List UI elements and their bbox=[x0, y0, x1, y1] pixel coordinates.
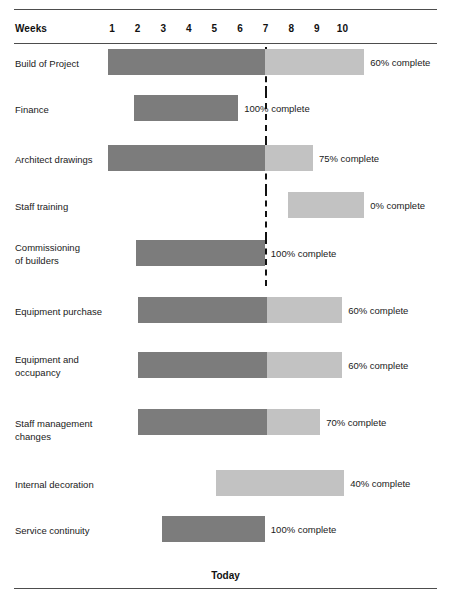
today-marker-line bbox=[265, 190, 267, 238]
weeks-axis-label: Weeks bbox=[15, 23, 47, 34]
task-bar-remaining bbox=[216, 470, 344, 496]
task-bar-completed bbox=[138, 297, 267, 323]
today-caption: Today bbox=[0, 570, 451, 581]
task-percent-note: 60% complete bbox=[348, 360, 408, 371]
header-rule bbox=[14, 43, 437, 44]
task-bar-remaining bbox=[267, 409, 320, 435]
week-tick-3: 3 bbox=[153, 23, 173, 34]
task-percent-note: 60% complete bbox=[370, 57, 430, 68]
week-tick-4: 4 bbox=[179, 23, 199, 34]
task-bar-remaining bbox=[265, 145, 313, 171]
task-percent-note: 100% complete bbox=[271, 524, 336, 535]
task-bar-remaining bbox=[267, 352, 342, 378]
task-label: Build of Project bbox=[15, 57, 79, 70]
task-percent-note: 70% complete bbox=[326, 417, 386, 428]
task-percent-note: 0% complete bbox=[370, 200, 425, 211]
task-label: Equipment and occupancy bbox=[15, 353, 79, 379]
week-tick-1: 1 bbox=[102, 23, 122, 34]
bottom-rule bbox=[14, 588, 437, 589]
week-tick-5: 5 bbox=[204, 23, 224, 34]
task-label: Staff management changes bbox=[15, 417, 92, 443]
task-label: Architect drawings bbox=[15, 153, 93, 166]
task-label: Finance bbox=[15, 103, 49, 116]
week-tick-7: 7 bbox=[256, 23, 276, 34]
week-tick-8: 8 bbox=[281, 23, 301, 34]
task-bar-completed bbox=[162, 516, 265, 542]
task-bar-completed bbox=[138, 409, 267, 435]
task-label: Equipment purchase bbox=[15, 305, 102, 318]
today-marker-line bbox=[265, 238, 267, 286]
task-bar-completed bbox=[136, 240, 265, 266]
task-percent-note: 100% complete bbox=[244, 103, 309, 114]
task-bar-remaining bbox=[267, 297, 342, 323]
task-percent-note: 100% complete bbox=[271, 248, 336, 259]
task-bar-completed bbox=[108, 145, 265, 171]
task-percent-note: 75% complete bbox=[319, 153, 379, 164]
week-tick-9: 9 bbox=[307, 23, 327, 34]
top-rule bbox=[14, 9, 437, 10]
task-label: Commissioning of builders bbox=[15, 241, 80, 267]
task-bar-completed bbox=[108, 49, 265, 75]
task-percent-note: 60% complete bbox=[348, 305, 408, 316]
task-bar-remaining bbox=[265, 49, 364, 75]
task-label: Internal decoration bbox=[15, 478, 94, 491]
today-marker-line bbox=[265, 92, 267, 142]
week-tick-10: 10 bbox=[332, 23, 352, 34]
task-bar-completed bbox=[138, 352, 267, 378]
task-label: Service continuity bbox=[15, 524, 89, 537]
week-tick-2: 2 bbox=[128, 23, 148, 34]
task-label: Staff training bbox=[15, 200, 68, 213]
week-tick-6: 6 bbox=[230, 23, 250, 34]
task-bar-completed bbox=[134, 95, 238, 121]
gantt-chart: Weeks 12345678910 Build of Project60% co… bbox=[0, 0, 451, 597]
task-bar-remaining bbox=[288, 192, 364, 218]
task-percent-note: 40% complete bbox=[350, 478, 410, 489]
